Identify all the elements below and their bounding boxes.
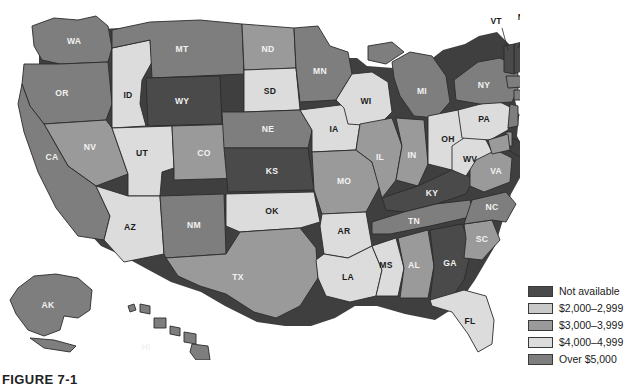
label-NV: NV: [84, 142, 96, 152]
legend-label-3000-3999: $3,000–3,999: [559, 320, 623, 331]
label-WV: WV: [463, 154, 477, 164]
label-AK: AK: [42, 300, 55, 310]
label-MS: MS: [379, 260, 392, 270]
label-NM: NM: [187, 220, 201, 230]
label-SC: SC: [476, 234, 488, 244]
legend-label-2000-2999: $2,000–2,999: [559, 303, 623, 314]
label-MN: MN: [313, 66, 327, 76]
label-IA: IA: [330, 124, 339, 134]
legend-swatch-over-5000: [528, 354, 553, 365]
label-NY: NY: [478, 80, 490, 90]
label-OH: OH: [441, 134, 454, 144]
legend-item-4[interactable]: Over $5,000: [528, 351, 640, 367]
figure-container: WA OR ID MT ND SD MN WI MI NV UT WY CO N…: [0, 0, 640, 387]
label-PA: PA: [478, 114, 490, 124]
legend-swatch-not-available: [528, 286, 553, 297]
legend-swatch-4000-4999: [528, 337, 553, 348]
label-IN: IN: [408, 150, 417, 160]
legend-label-not-available: Not available: [559, 286, 620, 297]
label-WY: WY: [175, 96, 189, 106]
figure-caption: FIGURE 7-1: [2, 372, 78, 387]
legend-item-1[interactable]: $2,000–2,999: [528, 300, 640, 316]
label-VT: VT: [491, 16, 503, 26]
state-AK[interactable]: [10, 274, 92, 352]
state-CT[interactable]: [514, 90, 520, 100]
state-MA[interactable]: [506, 76, 520, 88]
label-CA: CA: [46, 152, 59, 162]
map-legend: Not available $2,000–2,999 $3,000–3,999 …: [528, 283, 640, 368]
state-HI[interactable]: [128, 304, 210, 360]
label-MT: MT: [176, 44, 189, 54]
label-FL: FL: [465, 316, 476, 326]
label-OK: OK: [265, 206, 279, 216]
label-LA: LA: [342, 272, 354, 282]
label-AR: AR: [338, 226, 351, 236]
label-GA: GA: [443, 258, 456, 268]
label-CO: CO: [197, 148, 210, 158]
label-HI: HI: [142, 342, 151, 352]
legend-label-4000-4999: $4,000–4,999: [559, 337, 623, 348]
label-OR: OR: [55, 88, 69, 98]
label-NH: NH: [518, 12, 520, 22]
label-ND: ND: [262, 44, 275, 54]
label-AZ: AZ: [124, 222, 136, 232]
legend-label-over-5000: Over $5,000: [559, 354, 617, 365]
us-choropleth-map: WA OR ID MT ND SD MN WI MI NV UT WY CO N…: [0, 0, 520, 360]
map-svg: WA OR ID MT ND SD MN WI MI NV UT WY CO N…: [0, 0, 520, 360]
label-ID: ID: [124, 90, 133, 100]
label-NE: NE: [262, 124, 274, 134]
legend-swatch-3000-3999: [528, 320, 553, 331]
state-VT[interactable]: [504, 44, 514, 74]
legend-item-2[interactable]: $3,000–3,999: [528, 317, 640, 333]
label-NC: NC: [486, 202, 499, 212]
label-MO: MO: [337, 176, 351, 186]
label-KS: KS: [266, 166, 278, 176]
label-AL: AL: [408, 260, 420, 270]
label-KY: KY: [426, 188, 438, 198]
state-NH[interactable]: [514, 42, 520, 74]
label-WI: WI: [361, 96, 372, 106]
label-UT: UT: [136, 148, 148, 158]
state-FL[interactable]: [430, 290, 494, 352]
label-MI: MI: [417, 86, 427, 96]
legend-swatch-2000-2999: [528, 303, 553, 314]
label-SD: SD: [264, 86, 276, 96]
label-IL: IL: [376, 152, 384, 162]
legend-item-0[interactable]: Not available: [528, 283, 640, 299]
state-NJ[interactable]: [508, 104, 518, 128]
label-WA: WA: [67, 36, 81, 46]
label-TX: TX: [232, 272, 243, 282]
label-VA: VA: [490, 166, 502, 176]
label-TN: TN: [408, 216, 420, 226]
legend-item-3[interactable]: $4,000–4,999: [528, 334, 640, 350]
